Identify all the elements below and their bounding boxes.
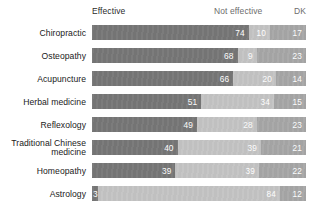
bar-segment-effective: 68 xyxy=(92,48,238,63)
bar-segment-dk: 23 xyxy=(257,117,306,132)
bar-segment-value: 12 xyxy=(293,189,302,199)
stacked-bar-chart: Effective Not effective DK Chiropractic7… xyxy=(0,0,316,217)
chart-row: Astrology38412 xyxy=(0,183,316,206)
row-category-label: Herbal medicine xyxy=(0,98,86,108)
stacked-bar: 492823 xyxy=(92,117,306,132)
bar-segment-effective: 39 xyxy=(92,163,175,178)
row-category-label: Acupuncture xyxy=(0,75,86,85)
bar-segment-value: 40 xyxy=(164,143,173,153)
legend-label-dk: DK xyxy=(294,6,306,16)
bar-segment-effective: 51 xyxy=(92,94,201,109)
bar-segment-value: 21 xyxy=(293,143,302,153)
bar-segment-not-effective: 84 xyxy=(98,186,280,201)
chart-row: Reflexology492823 xyxy=(0,114,316,137)
bar-segment-value: 84 xyxy=(267,189,276,199)
bar-segment-value: 39 xyxy=(248,143,257,153)
stacked-bar: 513415 xyxy=(92,94,306,109)
stacked-bar: 38412 xyxy=(92,186,306,201)
bar-segment-dk: 12 xyxy=(280,186,306,201)
bar-segment-value: 22 xyxy=(293,166,302,176)
bar-segment-value: 28 xyxy=(243,120,252,130)
chart-rows: Chiropractic741017Osteopathy68923Acupunc… xyxy=(0,22,316,206)
bar-segment-value: 23 xyxy=(293,120,302,130)
stacked-bar: 68923 xyxy=(92,48,306,63)
chart-row: Herbal medicine513415 xyxy=(0,91,316,114)
stacked-bar: 662014 xyxy=(92,71,306,86)
row-category-label: Homeopathy xyxy=(0,167,86,177)
chart-row: Acupuncture662014 xyxy=(0,68,316,91)
bar-segment-value: 23 xyxy=(293,51,302,61)
bar-segment-not-effective: 28 xyxy=(197,117,257,132)
bar-segment-dk: 23 xyxy=(257,48,306,63)
chart-row: Homeopathy393922 xyxy=(0,160,316,183)
chart-row: Osteopathy68923 xyxy=(0,45,316,68)
bar-segment-dk: 21 xyxy=(261,140,306,155)
bar-segment-value: 34 xyxy=(260,97,269,107)
bar-segment-not-effective: 39 xyxy=(175,163,258,178)
chart-legend-header: Effective Not effective DK xyxy=(92,6,306,20)
bar-segment-not-effective: 10 xyxy=(249,25,270,40)
bar-segment-value: 66 xyxy=(220,74,229,84)
bar-segment-value: 39 xyxy=(162,166,171,176)
bar-segment-value: 68 xyxy=(224,51,233,61)
bar-segment-value: 3 xyxy=(93,189,98,199)
stacked-bar: 393922 xyxy=(92,163,306,178)
bar-segment-value: 15 xyxy=(293,97,302,107)
chart-row: Traditional Chinese medicine403921 xyxy=(0,137,316,160)
bar-segment-not-effective: 20 xyxy=(233,71,276,86)
bar-segment-value: 10 xyxy=(257,28,266,38)
bar-segment-not-effective: 34 xyxy=(201,94,274,109)
bar-segment-effective: 66 xyxy=(92,71,233,86)
bar-segment-value: 51 xyxy=(188,97,197,107)
bar-segment-effective: 74 xyxy=(92,25,249,40)
row-category-label: Osteopathy xyxy=(0,52,86,62)
bar-segment-value: 20 xyxy=(263,74,272,84)
bar-segment-value: 39 xyxy=(245,166,254,176)
bar-segment-value: 49 xyxy=(183,120,192,130)
row-category-label: Chiropractic xyxy=(0,29,86,39)
row-category-label: Traditional Chinese medicine xyxy=(0,139,86,158)
bar-segment-dk: 22 xyxy=(259,163,306,178)
bar-segment-effective: 40 xyxy=(92,140,178,155)
bar-segment-value: 74 xyxy=(235,28,244,38)
bar-segment-not-effective: 39 xyxy=(178,140,261,155)
bar-segment-effective: 49 xyxy=(92,117,197,132)
bar-segment-dk: 15 xyxy=(274,94,306,109)
chart-row: Chiropractic741017 xyxy=(0,22,316,45)
row-category-label: Astrology xyxy=(0,190,86,200)
bar-segment-value: 9 xyxy=(248,51,253,61)
bar-segment-value: 17 xyxy=(293,28,302,38)
bar-segment-not-effective: 9 xyxy=(238,48,257,63)
stacked-bar: 403921 xyxy=(92,140,306,155)
stacked-bar: 741017 xyxy=(92,25,306,40)
bar-segment-value: 14 xyxy=(293,74,302,84)
legend-label-effective: Effective xyxy=(92,6,125,16)
bar-segment-dk: 17 xyxy=(270,25,306,40)
bar-segment-dk: 14 xyxy=(276,71,306,86)
row-category-label: Reflexology xyxy=(0,121,86,131)
legend-label-not-effective: Not effective xyxy=(214,6,262,16)
